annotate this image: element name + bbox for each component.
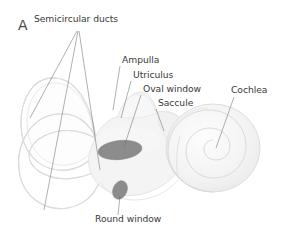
label-oval-window: Oval window [143,83,202,94]
label-utriculus: Utriculus [133,69,174,80]
panel-letter: A [18,17,28,33]
cochlea [166,104,260,192]
label-semicircular-ducts: Semicircular ducts [34,13,118,24]
leader-ampulla [113,66,120,110]
label-cochlea: Cochlea [231,84,267,95]
inner-ear-figure: A Semicircular ducts Ampulla Utriculus O… [0,0,284,238]
label-saccule: Saccule [158,97,194,108]
label-round-window: Round window [95,213,162,224]
inner-ear-illustration: A Semicircular ducts Ampulla Utriculus O… [0,0,284,238]
label-ampulla: Ampulla [122,54,159,65]
